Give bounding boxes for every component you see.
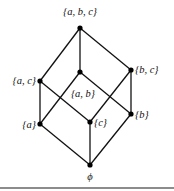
label-abc: {a, b, c} <box>63 6 98 17</box>
node-bc <box>128 67 133 72</box>
bottom-rule <box>0 187 174 189</box>
edge-bc-c <box>90 70 131 122</box>
node-a <box>37 121 42 126</box>
edge-a-empty <box>40 124 90 165</box>
label-ab: {a, b} <box>71 88 96 99</box>
node-c <box>87 119 92 124</box>
hasse-diagram: {a, b, c}{a, c}{a, b}{b, c}{a}{c}{b}ϕ <box>0 0 174 191</box>
edge-abc-ac <box>40 28 80 81</box>
label-empty: ϕ <box>87 171 93 182</box>
edge-abc-bc <box>80 28 131 70</box>
node-empty <box>87 162 92 167</box>
label-c: {c} <box>94 117 108 128</box>
label-ac: {a, c} <box>12 75 36 86</box>
node-ab <box>77 69 82 74</box>
node-abc <box>77 25 82 30</box>
label-bc: {b, c} <box>135 64 159 75</box>
label-b: {b} <box>135 109 149 120</box>
label-a: {a} <box>22 119 36 130</box>
node-ac <box>37 78 42 83</box>
node-b <box>128 111 133 116</box>
